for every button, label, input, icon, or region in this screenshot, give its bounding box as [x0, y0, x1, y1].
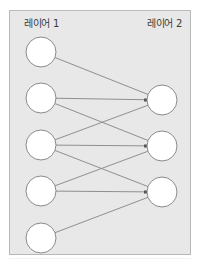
- connection-edge: [56, 98, 147, 100]
- connection-edge: [56, 145, 147, 146]
- connection-edge: [56, 191, 147, 192]
- layer-2-node: [147, 85, 177, 115]
- caption-divider: [9, 258, 191, 259]
- layer-1-node: [26, 223, 56, 253]
- layer-1-node: [26, 83, 56, 113]
- connection-edge: [55, 151, 148, 186]
- network-diagram: [0, 0, 199, 268]
- connection-edge: [55, 197, 148, 232]
- layer-1-node: [26, 176, 56, 206]
- layer-2-node: [147, 177, 177, 207]
- layer-1-node: [26, 37, 56, 67]
- connection-edge: [55, 58, 148, 95]
- layer-1-node: [26, 130, 56, 160]
- layer-2-node: [147, 131, 177, 161]
